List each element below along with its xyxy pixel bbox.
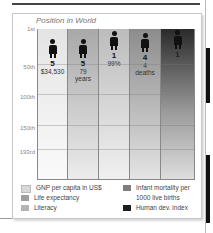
gridline xyxy=(37,64,195,65)
plot-area: 5 $34,530 5 79 years 1 99% 4 4 deaths 1 xyxy=(37,29,195,180)
page-edge-bar xyxy=(206,155,210,223)
swatch-icon xyxy=(123,205,131,211)
person-icon xyxy=(173,30,183,49)
column-literacy: 1 99% xyxy=(99,29,130,179)
gridline xyxy=(37,125,195,126)
rank-value: 1 xyxy=(99,51,129,60)
y-tick-label: 50th xyxy=(13,64,35,70)
legend-item: Infant mortality per xyxy=(123,184,190,193)
legend-item: Life expectancy xyxy=(21,194,102,203)
legend-right: Infant mortality per 1000 live births Hu… xyxy=(123,184,190,214)
swatch-icon xyxy=(21,205,29,211)
rank-value: 4 xyxy=(130,53,160,62)
y-tick-label: 150th xyxy=(13,125,35,131)
legend-item: Human dev. index xyxy=(123,204,190,213)
y-tick-label: 100th xyxy=(13,94,35,100)
rank-value: 1 xyxy=(161,50,194,59)
person-icon xyxy=(109,31,119,50)
person-icon xyxy=(78,39,88,58)
swatch-icon xyxy=(21,195,29,201)
legend-item: GNP per capita in US$ xyxy=(21,184,102,193)
gridline xyxy=(37,149,195,150)
chart-title: Position in World xyxy=(36,16,96,25)
swatch-icon xyxy=(21,185,31,193)
gridline xyxy=(37,94,195,95)
legend-item: Literacy xyxy=(21,204,102,213)
stat-value: $34,530 xyxy=(38,68,67,76)
top-rule xyxy=(12,3,200,5)
person-icon xyxy=(140,33,150,52)
column-infant-mortality: 4 4 deaths xyxy=(130,29,161,179)
person-icon xyxy=(48,39,58,58)
page-edge-bar xyxy=(206,48,210,103)
chart-panel: Position in World 1st 50th 100th 150th 1… xyxy=(12,13,202,219)
swatch-icon xyxy=(123,185,131,191)
y-tick-label: 193rd xyxy=(13,149,35,155)
column-life-expectancy: 5 79 years xyxy=(68,29,99,179)
column-gnp: 5 $34,530 xyxy=(37,29,68,179)
y-tick-label: 1st xyxy=(13,26,35,32)
stat-unit: deaths xyxy=(130,69,160,77)
column-human-dev-index: 1 xyxy=(161,29,195,179)
legend-left: GNP per capita in US$ Life expectancy Li… xyxy=(21,184,102,214)
stat-unit: years xyxy=(68,75,98,83)
legend-item-continued: 1000 live births xyxy=(123,194,190,203)
